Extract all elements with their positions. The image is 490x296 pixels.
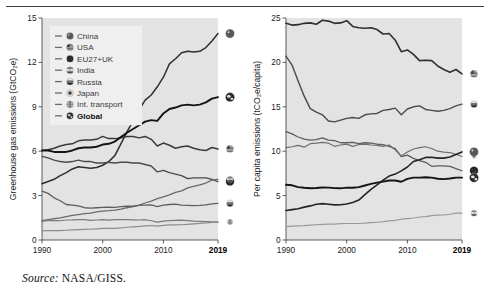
legend-label: India: [77, 66, 95, 75]
usa-flag-icon: [67, 44, 74, 51]
legend-label: Japan: [77, 89, 99, 98]
x-tick-label: 2019: [209, 245, 228, 255]
x-tick-label: 2010: [398, 245, 417, 255]
x-axis: 1990200020102019: [277, 240, 472, 255]
legend-label: Global: [77, 112, 102, 121]
transport-icon: [67, 101, 74, 108]
x-tick-label: 1990: [33, 245, 52, 255]
y-tick-label: 5: [276, 191, 281, 201]
top-rule: [6, 6, 484, 7]
y-tick-label: 12: [27, 57, 37, 67]
y-tick-label: 25: [271, 14, 281, 23]
source-value: NASA/GISS.: [62, 272, 126, 284]
x-tick-label: 1990: [277, 245, 296, 255]
y-axis-label: Greenhouse gas emissions (GtCO₂e): [8, 58, 18, 200]
source-caption: Source: NASA/GISS.: [22, 272, 126, 284]
legend-label: EU27+UK: [77, 55, 114, 64]
china-flag-icon: [67, 33, 74, 40]
india-flag-icon: [227, 176, 233, 182]
plot-background: [286, 18, 462, 240]
chart-right: 05101520251990200020102019Per capita emi…: [250, 14, 488, 262]
x-tick-label: 2010: [154, 245, 173, 255]
y-tick-label: 6: [32, 146, 37, 156]
series-end-markers: [225, 29, 234, 224]
globe-icon: [469, 173, 478, 182]
legend-label: China: [77, 32, 99, 41]
russia-flag-icon: [471, 101, 478, 108]
y-tick-label: 15: [271, 102, 281, 112]
y-tick-label: 0: [32, 235, 37, 245]
x-tick-label: 2000: [337, 245, 356, 255]
series-end-markers: [469, 70, 478, 216]
chart-svg-left: 036912151990200020102019Greenhouse gas e…: [6, 14, 244, 262]
y-tick-label: 9: [32, 102, 37, 112]
japan-flag-icon: [67, 90, 74, 97]
y-tick-label: 20: [271, 57, 281, 67]
china-flag-icon: [226, 29, 235, 38]
legend-label: Russia: [77, 78, 102, 87]
source-label: Source:: [22, 272, 59, 284]
eu-flag-icon: [67, 55, 74, 62]
chart-panel-left: 036912151990200020102019Greenhouse gas e…: [6, 14, 244, 262]
russia-flag-icon: [227, 200, 234, 207]
globe-icon: [67, 112, 74, 119]
legend-label: Int. transport: [77, 100, 123, 109]
china-flag-icon: [470, 148, 479, 157]
chart-left: 036912151990200020102019Greenhouse gas e…: [6, 14, 244, 262]
x-axis: 1990200020102019: [33, 240, 228, 255]
russia-flag-icon: [67, 78, 74, 85]
legend-label: USA: [77, 43, 94, 52]
india-flag-icon: [471, 210, 477, 216]
chart-svg-right: 05101520251990200020102019Per capita emi…: [250, 14, 488, 262]
y-axis: 0510152025: [271, 14, 286, 245]
y-tick-label: 0: [276, 235, 281, 245]
y-tick-label: 10: [271, 146, 281, 156]
x-tick-label: 2000: [93, 245, 112, 255]
y-axis-label: Per capita emissions (tCO₂e/capita): [252, 61, 262, 197]
x-tick-label: 2019: [453, 245, 472, 255]
y-axis: 03691215: [27, 14, 42, 245]
transport-icon: [227, 219, 232, 224]
y-tick-label: 15: [27, 14, 37, 23]
figure-root: 036912151990200020102019Greenhouse gas e…: [0, 0, 490, 296]
legend: ChinaUSAEU27+UKIndiaRussiaJapanInt. tran…: [50, 26, 142, 125]
usa-flag-icon: [470, 70, 477, 77]
chart-panel-right: 05101520251990200020102019Per capita emi…: [250, 14, 488, 262]
usa-flag-icon: [226, 145, 233, 152]
y-tick-label: 3: [32, 191, 37, 201]
globe-icon: [225, 93, 234, 102]
india-flag-icon: [67, 67, 74, 74]
